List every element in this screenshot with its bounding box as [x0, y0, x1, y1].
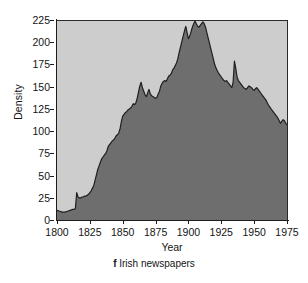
density-area-chart [57, 21, 287, 221]
y-tick-label: 175 [24, 59, 50, 69]
y-tick-mark [50, 109, 54, 110]
x-tick-mark [123, 220, 124, 224]
y-tick-mark [50, 20, 54, 21]
x-axis-title: Year [57, 241, 287, 253]
x-tick-mark [57, 220, 58, 224]
figure-irish-newspapers: Density 0255075100125150175200225 180018… [0, 0, 308, 283]
y-tick-mark [50, 153, 54, 154]
y-tick-label: 50 [24, 171, 50, 181]
x-tick-label: 1975 [267, 226, 307, 238]
y-tick-mark [50, 131, 54, 132]
x-tick-mark [221, 220, 222, 224]
y-tick-mark [50, 87, 54, 88]
x-tick-mark [287, 220, 288, 224]
y-tick-label: 150 [24, 82, 50, 92]
y-tick-mark [50, 42, 54, 43]
y-tick-label: 25 [24, 193, 50, 203]
x-tick-mark [254, 220, 255, 224]
y-tick-mark [50, 176, 54, 177]
figure-caption-text: Irish newspapers [119, 258, 195, 269]
y-tick-mark [50, 198, 54, 199]
y-tick-label: 75 [24, 148, 50, 158]
figure-caption: f Irish newspapers [0, 258, 308, 269]
y-tick-label: 125 [24, 104, 50, 114]
x-tick-mark [156, 220, 157, 224]
x-tick-mark [188, 220, 189, 224]
y-tick-label: 200 [24, 37, 50, 47]
y-tick-label: 100 [24, 126, 50, 136]
y-tick-label: 225 [24, 15, 50, 25]
y-tick-mark [50, 64, 54, 65]
plot-area [57, 20, 288, 221]
x-tick-mark [90, 220, 91, 224]
